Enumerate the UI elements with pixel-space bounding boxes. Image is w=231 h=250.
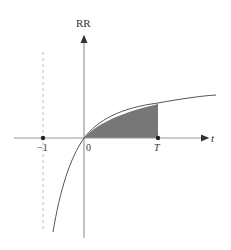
tick-0: 0 <box>86 142 91 153</box>
x-axis-label: t <box>211 132 215 144</box>
tick-neg1: −1 <box>37 142 48 153</box>
point-neg1 <box>41 136 45 140</box>
y-axis-label: RR <box>76 17 91 29</box>
shaded-region <box>84 104 158 138</box>
tick-T: T <box>154 142 161 153</box>
point-T <box>156 136 160 140</box>
chart: RR t −1 0 T <box>0 0 231 250</box>
